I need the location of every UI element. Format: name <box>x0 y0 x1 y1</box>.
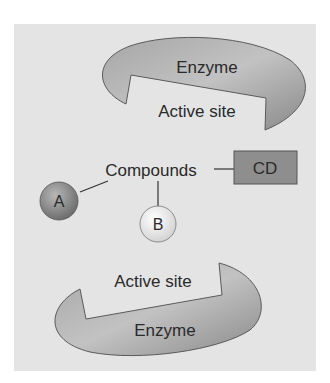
top-active-site-label: Active site <box>158 102 235 121</box>
compounds-label: Compounds <box>105 161 197 180</box>
compound-a-label: A <box>54 193 65 210</box>
bottom-active-site-label: Active site <box>114 272 191 291</box>
bottom-enzyme-label: Enzyme <box>134 321 195 340</box>
compound-b-label: B <box>153 216 164 233</box>
compound-cd-label: CD <box>253 159 278 178</box>
enzyme-diagram: Enzyme Active site Compounds A B CD Acti… <box>0 0 330 383</box>
top-enzyme-label: Enzyme <box>176 58 237 77</box>
